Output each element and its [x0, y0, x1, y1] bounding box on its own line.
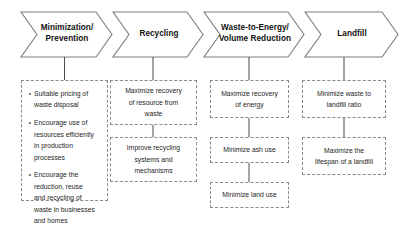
stage-header-row: Minimization/ Prevention Recycling Waste…: [0, 0, 414, 62]
stage-header-label-landfill: Landfill: [316, 29, 388, 40]
stage-header-label-recycling: Recycling: [124, 29, 194, 40]
stage-header-label-waste-to-energy: Waste-to-Energy/ Volume Reduction: [213, 23, 297, 44]
list-item: • Encourage the reduction, reuse and rec…: [26, 169, 102, 226]
stage-header-label-minimization-prevention: Minimization/ Prevention: [31, 23, 103, 44]
stage-content-box-landfill-2[interactable]: Maximize the lifespan of a landfill: [302, 137, 386, 175]
box-label: Maximize recovery of energy: [217, 88, 282, 111]
stage-content-box-landfill-1[interactable]: Minimize waste to landfill ratio: [302, 80, 386, 118]
box-label: Improve recycling systems and mechanisms: [123, 142, 184, 176]
bullet-icon: •: [26, 169, 34, 180]
box-label: Minimize waste to landfill ratio: [313, 88, 375, 111]
box-label: Maximize recovery of resource from waste: [121, 85, 186, 119]
stage-content-box-recycling-2[interactable]: Improve recycling systems and mechanisms: [110, 137, 197, 182]
list-item: • Suitable pricing of waste disposal: [26, 88, 102, 111]
list-item: • Encourage use of resources efficiently…: [26, 117, 102, 163]
box-label: Minimize ash use: [219, 144, 280, 155]
box-label: Maximize the lifespan of a landfill: [311, 145, 377, 168]
bullet-icon: •: [26, 117, 34, 128]
stage-content-box-minimization-prevention[interactable]: • Suitable pricing of waste disposal • E…: [21, 80, 108, 201]
stage-content-box-recycling-1[interactable]: Maximize recovery of resource from waste: [110, 80, 197, 125]
box-label: Minimize land use: [218, 189, 280, 200]
stage-content-box-waste-to-energy-2[interactable]: Minimize ash use: [210, 137, 289, 163]
list-item-label: Suitable pricing of waste disposal: [34, 88, 102, 111]
bullet-icon: •: [26, 88, 34, 99]
list-item-label: Encourage use of resources efficiently i…: [34, 117, 102, 163]
stage-content-box-waste-to-energy-3[interactable]: Minimize land use: [210, 182, 289, 208]
list-item-label: Encourage the reduction, reuse and recyc…: [34, 169, 102, 226]
stage-content-box-waste-to-energy-1[interactable]: Maximize recovery of energy: [210, 80, 289, 118]
